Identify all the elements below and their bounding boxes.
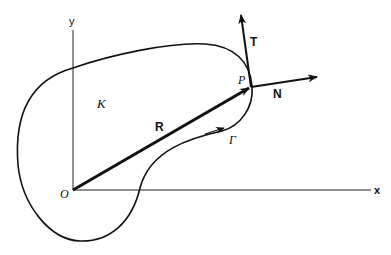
curve-gamma [17, 44, 252, 241]
x-axis-label: x [374, 184, 381, 196]
y-axis-label: y [69, 15, 75, 27]
vector-n-label: N [273, 87, 282, 101]
vector-n [251, 77, 317, 87]
diagram: y x O K Γ P R T N [0, 0, 391, 255]
point-label: P [237, 73, 246, 87]
origin-label: O [60, 187, 69, 201]
region-label: K [96, 96, 107, 111]
curve-label: Γ [228, 133, 237, 147]
vector-r-label: R [155, 120, 164, 134]
vector-t-label: T [250, 35, 258, 49]
